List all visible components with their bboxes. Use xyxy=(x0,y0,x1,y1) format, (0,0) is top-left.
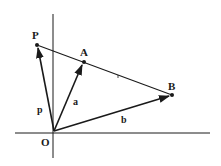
label-vector-a: a xyxy=(73,96,78,107)
label-vector-b: b xyxy=(121,114,127,125)
point-p xyxy=(35,43,39,47)
line-pab xyxy=(37,45,172,95)
label-point-p: P xyxy=(32,29,39,41)
label-vector-p: p xyxy=(37,104,43,115)
label-point-b: B xyxy=(168,80,176,92)
vector-b xyxy=(54,96,169,131)
label-origin-o: O xyxy=(41,136,50,148)
point-b xyxy=(170,93,174,97)
vector-diagram: P A B O p a b xyxy=(0,0,221,166)
label-point-a: A xyxy=(80,46,88,58)
point-a xyxy=(82,60,86,64)
vector-p xyxy=(38,48,54,131)
